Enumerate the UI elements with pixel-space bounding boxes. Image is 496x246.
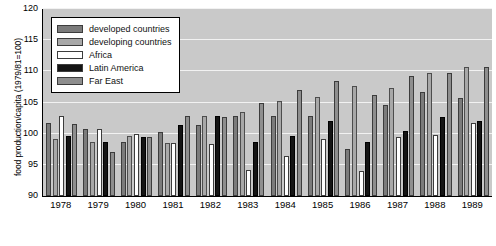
x-tick-label: 1987 (377, 199, 417, 210)
bar (308, 116, 313, 196)
legend-item: Far East (57, 75, 172, 87)
bar (147, 137, 152, 196)
bar (328, 121, 333, 196)
legend-item-label: developed countries (89, 24, 170, 34)
bar (158, 132, 163, 196)
y-tick-label: 105 (0, 98, 38, 107)
y-tick-label: 95 (0, 160, 38, 169)
y-tick-label: 115 (0, 35, 38, 44)
bar (178, 125, 183, 196)
bar (464, 67, 469, 196)
x-axis-ticks: 1978197919801981198219831984198519861987… (42, 199, 492, 219)
bar (372, 95, 377, 196)
bar (447, 73, 452, 196)
bar-group (342, 9, 379, 196)
bar (458, 98, 463, 196)
bar (246, 170, 251, 196)
bar (290, 136, 295, 196)
bar (297, 90, 302, 196)
bar (209, 144, 214, 196)
bar (202, 116, 207, 196)
bar-group (417, 9, 454, 196)
bar-group (380, 9, 417, 196)
bar-group (230, 9, 267, 196)
legend-item: Latin America (57, 62, 172, 74)
bar (233, 116, 238, 196)
legend-swatch-icon (57, 77, 83, 85)
y-tick-label: 120 (0, 4, 38, 13)
legend-swatch-icon (57, 25, 83, 33)
bar (365, 142, 370, 196)
bar (440, 117, 445, 196)
bar (103, 142, 108, 196)
bar (284, 156, 289, 196)
bar (277, 101, 282, 196)
x-tick-label: 1978 (41, 199, 81, 210)
bar (427, 73, 432, 196)
y-tick-label: 100 (0, 129, 38, 138)
bar (127, 136, 132, 196)
bar-group (455, 9, 492, 196)
chart-legend: developed countriesdeveloping countriesA… (51, 17, 180, 93)
chart-figure: food production/capita (1979/81=100) 909… (0, 0, 496, 246)
bar (471, 123, 476, 196)
x-tick-label: 1989 (452, 199, 492, 210)
bar (389, 88, 394, 196)
bar (352, 86, 357, 196)
legend-item-label: Africa (89, 50, 112, 60)
bar (215, 116, 220, 196)
x-tick-label: 1982 (190, 199, 230, 210)
bar (359, 171, 364, 196)
bar (141, 137, 146, 196)
bar (403, 131, 408, 196)
bar (259, 103, 264, 197)
bar (53, 139, 58, 196)
bar (271, 116, 276, 196)
bar (46, 123, 51, 196)
bar (321, 139, 326, 196)
x-tick-label: 1979 (78, 199, 118, 210)
legend-swatch-icon (57, 38, 83, 46)
bar (240, 112, 245, 196)
bar (383, 105, 388, 196)
bar (253, 142, 258, 196)
legend-item: developing countries (57, 36, 172, 48)
x-tick-label: 1988 (415, 199, 455, 210)
bar (90, 142, 95, 196)
bar (110, 152, 115, 196)
bar (185, 116, 190, 196)
bar (134, 134, 139, 196)
y-tick-label: 110 (0, 66, 38, 75)
bar (420, 92, 425, 196)
legend-item: developed countries (57, 23, 172, 35)
x-tick-label: 1986 (340, 199, 380, 210)
bar (97, 129, 102, 196)
x-tick-label: 1983 (228, 199, 268, 210)
legend-swatch-icon (57, 51, 83, 59)
legend-item-label: Far East (89, 76, 123, 86)
y-tick-label: 90 (0, 191, 38, 200)
x-tick-label: 1981 (153, 199, 193, 210)
bar (72, 124, 77, 196)
bar-group (268, 9, 305, 196)
x-tick-label: 1980 (116, 199, 156, 210)
bar (196, 125, 201, 196)
legend-item: Africa (57, 49, 172, 61)
bar (222, 117, 227, 196)
legend-item-label: developing countries (89, 37, 172, 47)
bar-group (193, 9, 230, 196)
bar (484, 67, 489, 196)
legend-item-label: Latin America (89, 63, 144, 73)
bar (433, 135, 438, 196)
legend-swatch-icon (57, 64, 83, 72)
bar (396, 137, 401, 196)
bar (409, 76, 414, 196)
bar (334, 81, 339, 196)
bar (83, 129, 88, 196)
bar (345, 149, 350, 196)
x-tick-label: 1984 (265, 199, 305, 210)
bar (66, 136, 71, 196)
bar (315, 97, 320, 196)
bar (171, 143, 176, 196)
bar-group (305, 9, 342, 196)
